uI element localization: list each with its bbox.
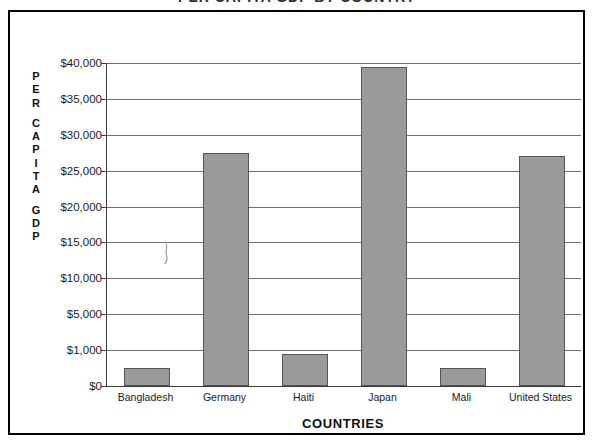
y-axis-tick-mark: [101, 207, 107, 208]
gridline: [107, 278, 581, 279]
y-axis-tick-label: $20,000: [40, 201, 102, 213]
gridline: [107, 314, 581, 315]
gridline: [107, 350, 581, 351]
y-axis-tick-mark: [101, 171, 107, 172]
x-axis-tick-label: Haiti: [293, 391, 314, 403]
chart-title-strip: PER CAPITA GDP BY COUNTRY: [0, 0, 594, 8]
x-axis-baseline: [107, 386, 581, 387]
chart-title: PER CAPITA GDP BY COUNTRY: [0, 0, 594, 5]
y-axis-tick-label: $0: [40, 380, 102, 392]
gridline: [107, 207, 581, 208]
gridline: [107, 171, 581, 172]
bar-mali: [440, 368, 486, 386]
gridline: [107, 242, 581, 243]
y-axis-tick-labels: $40,000$35,000$30,000$25,000$20,000$15,0…: [40, 52, 102, 392]
chart-frame: PERCAPITAGDP $40,000$35,000$30,000$25,00…: [8, 10, 585, 435]
gridline: [107, 99, 581, 100]
y-axis-tick-mark: [101, 63, 107, 64]
bar-haiti: [282, 354, 328, 386]
x-axis-tick-label: Mali: [452, 391, 471, 403]
x-axis-tick-label: United States: [509, 391, 572, 403]
y-axis-tick-mark: [101, 278, 107, 279]
y-axis-tick-label: $35,000: [40, 93, 102, 105]
x-axis-tick-label: Germany: [203, 391, 246, 403]
x-axis-tick-labels: BangladeshGermanyHaitiJapanMaliUnited St…: [106, 391, 580, 407]
y-axis-tick-label: $40,000: [40, 57, 102, 69]
x-axis-title: COUNTRIES: [106, 416, 580, 431]
bar-germany: [203, 153, 249, 386]
y-axis-tick-label: $1,000: [40, 344, 102, 356]
y-axis-tick-mark: [101, 350, 107, 351]
bar-japan: [361, 67, 407, 386]
y-axis-tick-mark: [101, 314, 107, 315]
y-axis-tick-label: $5,000: [40, 308, 102, 320]
y-axis-tick-mark: [101, 242, 107, 243]
y-axis-tick-label: $30,000: [40, 129, 102, 141]
gridline: [107, 63, 581, 64]
x-axis-tick-label: Bangladesh: [118, 391, 173, 403]
y-axis-tick-label: $10,000: [40, 272, 102, 284]
y-axis-tick-label: $15,000: [40, 236, 102, 248]
y-axis-tick-label: $25,000: [40, 165, 102, 177]
gridline: [107, 135, 581, 136]
y-axis-tick-mark: [101, 135, 107, 136]
y-axis-tick-mark: [101, 386, 107, 387]
plot-area: [106, 63, 580, 386]
pencil-scribble-artifact: [163, 243, 171, 265]
x-axis-tick-label: Japan: [368, 391, 397, 403]
y-axis-tick-mark: [101, 99, 107, 100]
bar-bangladesh: [124, 368, 170, 386]
bar-united-states: [519, 156, 565, 386]
